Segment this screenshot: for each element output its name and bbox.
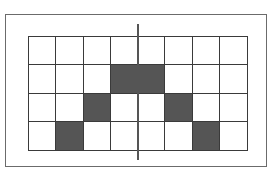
grid-cell-empty: [29, 37, 56, 65]
grid-cell-empty: [138, 122, 165, 150]
grid-cell-empty: [220, 122, 247, 150]
grid-cell-empty: [84, 122, 111, 150]
grid-cell-empty: [193, 37, 220, 65]
grid-cell-empty: [56, 94, 83, 122]
grid-cell-empty: [56, 65, 83, 93]
grid-cell-empty: [165, 65, 192, 93]
grid-cell-empty: [193, 65, 220, 93]
grid-cell-empty: [165, 37, 192, 65]
grid-cell-empty: [111, 94, 138, 122]
grid-cell-empty: [84, 65, 111, 93]
grid-cell-filled: [84, 94, 111, 122]
grid-cell-empty: [193, 94, 220, 122]
grid-cell-empty: [220, 65, 247, 93]
grid-cell-empty: [220, 94, 247, 122]
grid-cell-filled: [138, 65, 165, 93]
grid-cell-filled: [56, 122, 83, 150]
grid-cell-empty: [111, 37, 138, 65]
grid-cell-empty: [56, 37, 83, 65]
grid-cell-empty: [138, 37, 165, 65]
grid-cell-empty: [29, 94, 56, 122]
grid-cell-empty: [111, 122, 138, 150]
grid-cell-empty: [29, 65, 56, 93]
grid-cell-empty: [29, 122, 56, 150]
grid-cell-empty: [220, 37, 247, 65]
grid-cell-empty: [84, 37, 111, 65]
symmetry-axis-line: [137, 24, 139, 160]
grid-cell-empty: [138, 94, 165, 122]
grid-cell-empty: [165, 122, 192, 150]
grid-cell-filled: [111, 65, 138, 93]
grid-cell-filled: [193, 122, 220, 150]
grid-cell-filled: [165, 94, 192, 122]
